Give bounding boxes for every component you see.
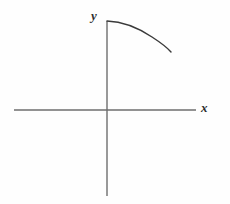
plot-svg (0, 0, 230, 204)
concave-down-decreasing-curve (107, 21, 171, 52)
figure-canvas: y x (0, 0, 230, 204)
y-axis-label: y (91, 9, 97, 22)
x-axis-label: x (201, 101, 208, 114)
